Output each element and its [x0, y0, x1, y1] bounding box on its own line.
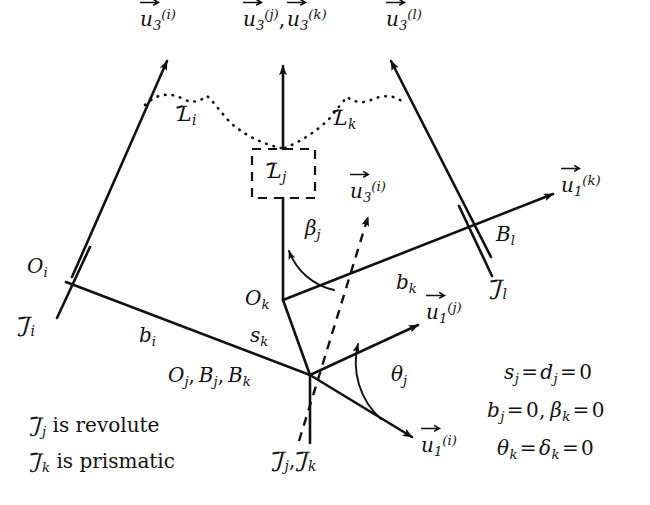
label-u3-jk-top: u3(j), u3(k) — [243, 8, 327, 32]
label-joints-Jj-Jk: Jj, Jk — [276, 450, 316, 474]
label-angle-theta-j: θj — [391, 364, 407, 387]
label-link-Lk: Lk — [334, 108, 356, 132]
label-link-Lj: Lj — [268, 161, 286, 185]
label-u1-k: u1(k) — [561, 174, 601, 198]
label-point-Bl: Bl — [496, 224, 515, 247]
label-link-Li: Li — [178, 104, 196, 128]
note-Jk-prismatic: Jk is prismatic — [34, 451, 175, 474]
vector-u3-i-mid-dashed-arrow — [299, 217, 368, 441]
label-angle-beta-j: βj — [305, 218, 321, 241]
label-joint-Ji: Ji — [22, 315, 35, 339]
angle-theta-j-arc — [356, 344, 381, 419]
vector-u3-i-top-arrow — [72, 61, 167, 277]
vector-u3-l-top-arrow — [391, 61, 491, 257]
equation-thetak-deltak: θk=δk=0 — [497, 438, 594, 461]
joint-axis-Ji-stroke — [57, 247, 90, 318]
angle-beta-j-arc — [289, 251, 334, 290]
label-point-Oi: Oi — [27, 256, 48, 279]
label-length-sk: sk — [250, 325, 268, 348]
link-Li-dotted-curve — [145, 95, 281, 148]
label-origin-points-group: Oj, Bj, Bk — [168, 365, 251, 388]
equation-sj-dj: sj=dj=0 — [504, 362, 592, 385]
figure-canvas: u3(i) u3(j), u3(k) u3(l) Li Lk Lj — [0, 0, 650, 505]
label-joint-Jl: Jl — [494, 278, 507, 302]
joint-axis-Jj-Jk-vertical-lower — [283, 300, 310, 375]
equation-bj-betak: bj=0, βk=0 — [487, 400, 605, 423]
label-length-bi: bi — [139, 325, 156, 348]
label-length-bk: bk — [396, 272, 417, 295]
label-u1-i: u1(i) — [421, 434, 457, 458]
label-u3-i-mid: u3(i) — [350, 180, 386, 204]
label-point-Ok: Ok — [245, 288, 269, 311]
note-Jj-revolute: Jj is revolute — [34, 415, 159, 438]
label-u1-j: u1(j) — [426, 301, 462, 325]
link-bi-line — [66, 282, 310, 375]
label-u3-i-top: u3(i) — [140, 8, 176, 32]
label-u3-l-top: u3(l) — [386, 8, 422, 32]
joint-axis-Jl-stroke — [459, 206, 492, 276]
